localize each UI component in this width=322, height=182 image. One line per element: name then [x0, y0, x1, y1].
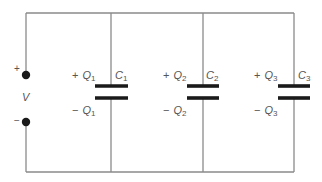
capacitor-1-negative-charge: −Q1 — [72, 104, 96, 118]
capacitor-3-positive-charge: +Q3 — [254, 69, 278, 83]
capacitor-3-negative-charge: −Q3 — [254, 104, 278, 118]
positive-sign: + — [14, 63, 20, 74]
capacitor-2-positive-charge: +Q2 — [163, 69, 187, 83]
negative-terminal — [22, 118, 30, 126]
voltage-label: V — [22, 91, 31, 103]
circuit-diagram: + − V C1 +Q1 −Q1 C2 +Q2 −Q2 C3 +Q3 −Q3 — [0, 0, 322, 182]
capacitor-1: C1 +Q1 −Q1 — [72, 13, 128, 172]
capacitor-2-negative-charge: −Q2 — [163, 104, 187, 118]
positive-terminal — [22, 71, 30, 79]
capacitor-1-label: C1 — [115, 69, 128, 83]
capacitor-1-positive-charge: +Q1 — [72, 69, 96, 83]
capacitor-2-label: C2 — [206, 69, 219, 83]
capacitor-2: C2 +Q2 −Q2 — [163, 13, 219, 172]
capacitor-3: C3 +Q3 −Q3 — [254, 13, 311, 172]
negative-sign: − — [14, 115, 20, 126]
capacitor-3-label: C3 — [298, 69, 311, 83]
